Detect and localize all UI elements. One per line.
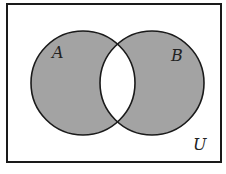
- venn-diagram: A B U: [0, 0, 226, 174]
- set-b-label: B: [170, 46, 183, 65]
- universe-label: U: [193, 135, 207, 154]
- set-a-label: A: [50, 43, 64, 62]
